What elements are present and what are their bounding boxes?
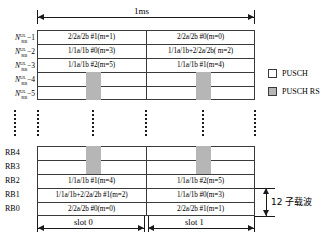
axis-label-nrb-5-suffix: −5 [27, 89, 35, 98]
slot-tick-right [254, 216, 255, 232]
axis-label-nrb-4-sup: UL [20, 75, 26, 80]
dim-line-1ms [38, 17, 254, 18]
axis-label-nrb-1-suffix: −1 [27, 33, 35, 42]
axis-label-nrb-2: NULRB−2 [2, 47, 35, 56]
slot0-arrowhead-right [138, 225, 144, 231]
pusch-rs-block-top-slot1 [196, 72, 211, 100]
axis-label-nrb-1: NULRB−1 [2, 33, 35, 42]
dim-arrowhead-left [38, 14, 44, 20]
axis-label-nrb-2-suffix: −2 [27, 47, 35, 56]
axis-label-rb0: RB0 [5, 204, 20, 213]
slot0-arrowhead-left [38, 225, 44, 231]
vertical-ellipsis-rs-slot0 [92, 110, 94, 138]
bottom-cell-rb2-slot0: 1/1a/1b #1(m=4) [37, 177, 146, 185]
bottom-cell-rb0-slot0: 2/2a/2b #0(m=0) [37, 205, 146, 213]
axis-label-nrb-1-sup: UL [20, 33, 26, 38]
slot1-dim-line [148, 228, 254, 229]
legend-swatch-pusch [268, 69, 277, 78]
legend-label-pusch-rs: PUSCH RS [282, 87, 320, 96]
legend-label-pusch: PUSCH [282, 69, 308, 78]
figure-root: 1ms 2/2a/2b #1(m=1) 1/1a/1b #0(m=3) 1/1a… [0, 0, 335, 244]
axis-label-rb1: RB1 [5, 190, 20, 199]
bottom-cell-rb0-slot1: 2/2a/2b #1(m=1) [146, 205, 255, 213]
axis-label-rb2: RB2 [5, 176, 20, 185]
axis-label-nrb-5-sup: UL [20, 89, 26, 94]
vertical-ellipsis-grid-left [37, 110, 39, 138]
dim-tick-right [254, 10, 255, 24]
axis-label-nrb-3-sup: UL [20, 61, 26, 66]
axis-label-nrb-2-sup: UL [20, 47, 26, 52]
axis-label-nrb-3-suffix: −3 [27, 61, 35, 70]
slot0-dim-line [38, 228, 144, 229]
top-cell-r2-slot1: 1/1a/1b #1(m=4) [146, 61, 255, 69]
pusch-rs-block-bottom-slot1 [196, 146, 211, 174]
dim-label-1ms: 1ms [132, 6, 151, 16]
dim-arrowhead-right [248, 14, 254, 20]
subcarrier-arrowhead-bottom [263, 210, 269, 216]
top-cell-r1-slot1: 1/1a/1b+2/2a/2b( m=2) [146, 47, 255, 55]
vertical-ellipsis-rs-slot1 [202, 110, 204, 138]
bottom-cell-rb1-slot1: 1/1a/1b #0(m=3) [146, 191, 255, 199]
vertical-ellipsis-grid-right [254, 110, 256, 138]
bottom-cell-rb1-slot0: 1/1a/1b+2/2a/2b #1(m=2) [37, 191, 146, 199]
vertical-ellipsis-axis [14, 110, 16, 138]
top-cell-r0-slot0: 2/2a/2b #1(m=1) [37, 33, 146, 41]
axis-label-nrb-4-suffix: −4 [27, 75, 35, 84]
axis-label-rb3: RB3 [5, 162, 20, 171]
pusch-rs-block-top-slot0 [86, 72, 101, 100]
vertical-ellipsis-slot-divider [145, 110, 147, 138]
bottom-cell-rb2-slot1: 1/1a/1b #2(m=5) [146, 177, 255, 185]
subcarrier-count-label: 12 子载波 [271, 197, 312, 207]
top-cell-r0-slot1: 2/2a/2b #0(m=0) [146, 33, 255, 41]
slot-tick-mid-a [144, 216, 145, 232]
axis-label-nrb-4: NULRB−4 [2, 75, 35, 84]
slot1-label: slot 1 [183, 217, 206, 227]
slot0-label: slot 0 [72, 217, 95, 227]
axis-label-nrb-3: NULRB−3 [2, 61, 35, 70]
subcarrier-arrowhead-top [263, 188, 269, 194]
top-cell-r1-slot0: 1/1a/1b #0(m=3) [37, 47, 146, 55]
legend-swatch-pusch-rs [268, 87, 277, 96]
pusch-rs-block-bottom-slot0 [86, 146, 101, 174]
top-cell-r2-slot0: 1/1a/1b #2(m=5) [37, 61, 146, 69]
subcarrier-tick-bottom [255, 216, 275, 217]
axis-label-nrb-5: NULRB−5 [2, 89, 35, 98]
slot1-arrowhead-left [148, 225, 154, 231]
slot1-arrowhead-right [248, 225, 254, 231]
axis-label-rb4: RB4 [5, 148, 20, 157]
